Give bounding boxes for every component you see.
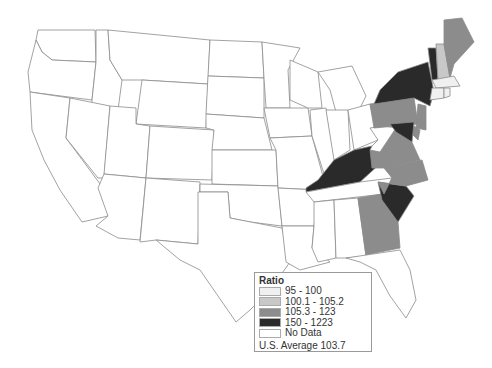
state-nm [140,178,200,244]
state-ne [206,114,272,150]
legend-label: 95 - 100 [285,286,322,296]
legend-item-bin1: 95 - 100 [259,286,367,297]
legend-swatch [259,297,281,306]
legend-swatch [259,329,281,338]
legend-swatch [259,287,281,296]
state-ms [312,200,336,262]
state-wi [290,60,322,108]
state-me [444,18,474,78]
legend-swatch [259,308,281,317]
state-wy [136,80,208,128]
us-map [0,0,492,368]
legend-label: 150 - 1223 [285,318,333,328]
legend-label: 100.1 - 105.2 [285,297,344,307]
us-average-note: U.S. Average 103.7 [259,340,367,351]
state-nj [416,104,426,130]
state-nd [208,40,264,78]
legend-label: No Data [285,328,322,338]
state-ia [264,108,312,138]
legend-item-nodata: No Data [259,328,367,339]
legend-swatch [259,318,281,327]
state-co [146,126,214,180]
state-ks [212,150,278,186]
map-legend: Ratio 95 - 100 100.1 - 105.2 105.3 - 123… [254,272,372,352]
state-ri [444,88,450,98]
state-ct [430,88,444,100]
state-ny [374,62,434,106]
state-sd [206,76,264,118]
state-mt [108,30,210,84]
legend-label: 105.3 - 123 [285,307,336,317]
legend-item-bin3: 105.3 - 123 [259,307,367,318]
